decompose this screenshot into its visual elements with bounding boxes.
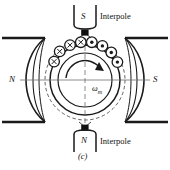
conductor-cross (49, 56, 60, 67)
conductor-dot (112, 57, 123, 68)
conductor-dot (87, 37, 98, 48)
top-interpole-block (79, 29, 91, 38)
conductor-dot (106, 47, 117, 58)
conductor-cross (65, 40, 76, 51)
conductor-cross (76, 37, 87, 48)
bottom-interpole-label: Interpole (100, 137, 131, 146)
left-pole-letter: N (9, 75, 15, 84)
right-pole-letter: S (153, 75, 158, 84)
top-interpole-label: Interpole (100, 12, 131, 21)
omega-m-label: ωm (92, 85, 102, 95)
omega-subscript: m (98, 89, 102, 95)
figure-caption: (c) (78, 152, 87, 161)
top-interpole-letter: S (81, 12, 86, 21)
bottom-interpole-letter: N (81, 136, 87, 145)
conductor-cross (54, 46, 65, 57)
